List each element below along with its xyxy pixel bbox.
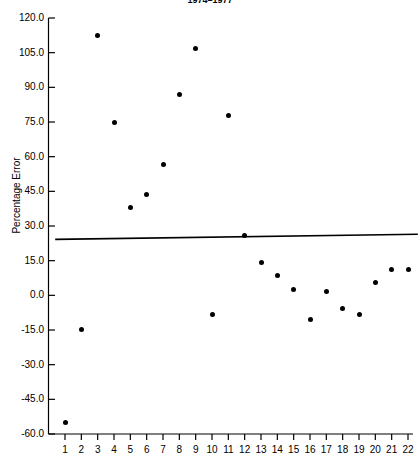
data-point xyxy=(144,192,149,197)
data-point xyxy=(308,317,313,322)
y-axis-tick-label: 30.0 xyxy=(0,221,44,231)
y-axis-tick-label: 105.0 xyxy=(0,48,44,58)
y-axis-tick-label: 15.0 xyxy=(0,256,44,266)
y-axis-tick-label: 60.0 xyxy=(0,152,44,162)
data-point xyxy=(226,113,231,118)
x-axis-ticks xyxy=(65,434,408,440)
percentage-error-scatter-chart: 1974–1977 120.0105.090.075.060.045.030.0… xyxy=(0,0,420,461)
data-point xyxy=(259,260,264,265)
y-axis-tick-label: 75.0 xyxy=(0,117,44,127)
data-point xyxy=(63,420,68,425)
data-point xyxy=(340,306,345,311)
y-axis-title: Percentage Error xyxy=(11,136,22,256)
data-point xyxy=(95,33,100,38)
y-axis-tick-label: -60.0 xyxy=(0,429,44,439)
y-axis-ticks xyxy=(49,18,56,434)
y-axis-tick-label: -30.0 xyxy=(0,360,44,370)
y-axis-tick-label: -15.0 xyxy=(0,325,44,335)
data-point xyxy=(324,289,329,294)
mean-reference-line xyxy=(55,234,418,239)
data-point xyxy=(406,267,411,272)
mean-reference-line xyxy=(55,234,418,239)
data-point xyxy=(193,46,198,51)
y-axis-tick-label: 120.0 xyxy=(0,13,44,23)
y-axis-tick-label: -45.0 xyxy=(0,394,44,404)
data-point xyxy=(242,233,247,238)
y-axis-tick-label: 0.0 xyxy=(0,290,44,300)
x-axis-tick-label: 22 xyxy=(396,444,420,455)
plot-area: 120.0105.090.075.060.045.030.015.00.0-15… xyxy=(0,0,420,461)
axis-lines xyxy=(0,0,420,461)
y-axis-tick-label: 45.0 xyxy=(0,186,44,196)
y-axis-tick-label: 90.0 xyxy=(0,82,44,92)
